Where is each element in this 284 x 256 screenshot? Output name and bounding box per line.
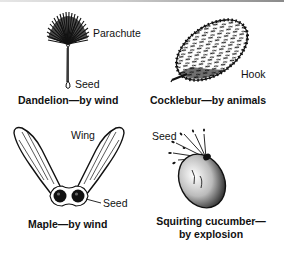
caption-cucumber: Squirting cucumber— by explosion	[150, 215, 272, 241]
cucumber-fruit-icon	[169, 146, 234, 216]
caption-cucumber-line2: by explosion	[150, 228, 272, 241]
caption-cucumber-line1: Squirting cucumber—	[150, 215, 272, 228]
label-cucumber-seed: Seed	[152, 131, 177, 142]
